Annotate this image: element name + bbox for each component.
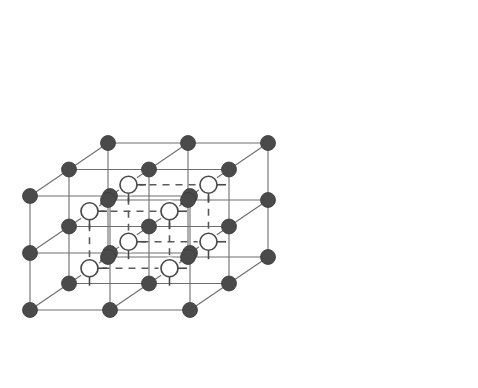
interstitial-atom-open bbox=[198, 174, 227, 203]
lattice-atom-filled bbox=[222, 219, 237, 234]
open-atom-circle bbox=[120, 176, 137, 193]
lattice-atom-filled bbox=[181, 136, 196, 151]
lattice-atom-filled bbox=[181, 250, 196, 265]
lattice-atom-filled bbox=[222, 276, 237, 291]
open-atom-circle bbox=[161, 203, 178, 220]
open-atom-circle bbox=[120, 233, 137, 250]
lattice-atom-filled bbox=[62, 276, 77, 291]
lattice-atom-filled bbox=[261, 193, 276, 208]
lattice-atom-filled bbox=[101, 193, 116, 208]
lattice-atom-filled bbox=[142, 162, 157, 177]
crystal-lattice-svg: Cubic crystal lattice unit cell diagram … bbox=[0, 0, 478, 388]
lattice-atom-filled bbox=[23, 303, 38, 318]
lattice-atom-filled bbox=[101, 136, 116, 151]
open-atom-circle bbox=[81, 203, 98, 220]
lattice-atom-filled bbox=[23, 189, 38, 204]
lattice-atom-filled bbox=[183, 303, 198, 318]
open-atom-circle bbox=[81, 260, 98, 277]
lattice-atom-filled bbox=[261, 136, 276, 151]
lattice-atom-filled bbox=[142, 276, 157, 291]
open-atom-circle bbox=[200, 233, 217, 250]
lattice-atom-filled bbox=[62, 162, 77, 177]
lattice-atom-filled bbox=[101, 250, 116, 265]
lattice-atom-filled bbox=[103, 303, 118, 318]
open-atom-circle bbox=[200, 176, 217, 193]
lattice-atom-filled bbox=[142, 219, 157, 234]
interstitial-atom-open bbox=[118, 174, 147, 203]
lattice-atom-filled bbox=[222, 162, 237, 177]
lattice-atom-filled bbox=[261, 250, 276, 265]
lattice-atom-filled bbox=[62, 219, 77, 234]
interstitial-atom-open bbox=[198, 231, 227, 260]
open-atom-circle bbox=[161, 260, 178, 277]
lattice-atom-filled bbox=[23, 246, 38, 261]
interstitial-atom-open bbox=[118, 231, 147, 260]
crystal-structure-figure: Cubic crystal lattice unit cell diagram … bbox=[0, 0, 478, 388]
lattice-atom-filled bbox=[181, 193, 196, 208]
filled-atom-group bbox=[23, 136, 276, 318]
